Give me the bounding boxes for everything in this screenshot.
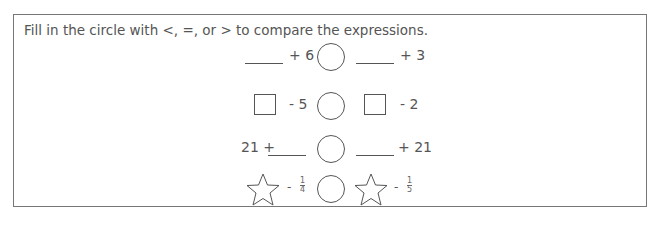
expression-text: 21 + <box>241 139 275 155</box>
fraction-denominator: 4 <box>300 186 305 194</box>
star-icon[interactable] <box>353 173 389 206</box>
minus-sign: - <box>287 180 291 194</box>
expression-text: + 6 <box>289 47 314 63</box>
fraction: 1 5 <box>407 177 412 194</box>
fraction: 1 4 <box>300 177 305 194</box>
answer-square[interactable] <box>364 94 386 115</box>
minus-sign: - <box>394 180 398 194</box>
instruction-text: Fill in the circle with <, =, or > to co… <box>24 22 428 38</box>
comparison-row-1: + 6 - 2 + 3 <box>0 42 663 72</box>
expression-text: - 2 <box>400 96 418 112</box>
expression-text: - 5 <box>289 96 307 112</box>
comparison-circle[interactable] <box>317 92 345 120</box>
expression-text: + 21 <box>398 139 432 155</box>
expression-text: + 3 <box>400 47 425 63</box>
comparison-circle[interactable] <box>317 175 345 203</box>
fraction-numerator: 1 <box>300 177 305 185</box>
answer-blank[interactable] <box>356 63 394 64</box>
comparison-circle[interactable] <box>317 43 345 71</box>
answer-blank[interactable] <box>356 155 394 156</box>
fraction-numerator: 1 <box>407 177 412 185</box>
fraction-denominator: 5 <box>407 186 412 194</box>
answer-blank[interactable] <box>245 63 283 64</box>
comparison-row-2: - 5 - 2 <box>0 90 663 120</box>
answer-square[interactable] <box>254 94 276 115</box>
comparison-row-3: 21 + + 21 <box>0 134 663 164</box>
star-icon[interactable] <box>245 173 281 206</box>
comparison-row-4: - 1 4 - 1 5 <box>0 173 663 203</box>
comparison-circle[interactable] <box>317 135 345 163</box>
answer-blank[interactable] <box>268 155 306 156</box>
